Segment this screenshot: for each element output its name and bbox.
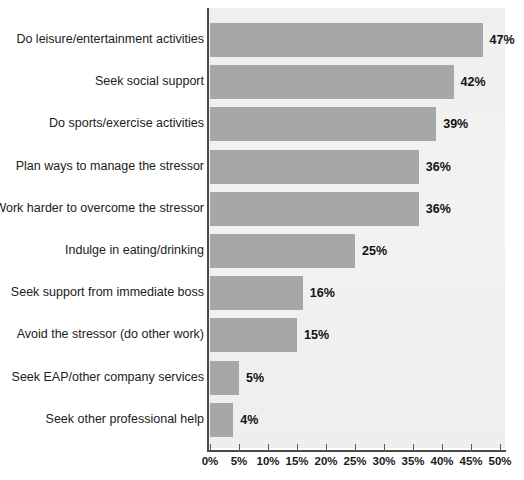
bar-row: Seek other professional help4% bbox=[0, 403, 524, 437]
bar-row: Avoid the stressor (do other work)15% bbox=[0, 318, 524, 352]
bar-value-label: 15% bbox=[304, 328, 329, 342]
x-axis-tick-label: 30% bbox=[372, 455, 395, 467]
x-axis-tick bbox=[384, 444, 385, 452]
bar-track: 25% bbox=[210, 234, 506, 268]
category-label: Seek support from immediate boss bbox=[11, 286, 204, 300]
x-axis-tick bbox=[268, 444, 269, 452]
bar-track: 16% bbox=[210, 276, 506, 310]
category-label: Seek other professional help bbox=[46, 413, 204, 427]
bar bbox=[210, 23, 483, 57]
bar bbox=[210, 234, 355, 268]
category-label: Do leisure/entertainment activities bbox=[16, 33, 204, 47]
bar bbox=[210, 318, 297, 352]
bar-value-label: 42% bbox=[461, 75, 486, 89]
bar-value-label: 47% bbox=[490, 33, 515, 47]
bar bbox=[210, 150, 419, 184]
x-axis-line bbox=[207, 450, 506, 452]
x-axis-tick-label: 20% bbox=[314, 455, 337, 467]
category-label: Work harder to overcome the stressor bbox=[0, 202, 204, 216]
bar bbox=[210, 361, 239, 395]
x-axis-tick bbox=[500, 444, 501, 452]
x-axis-tick bbox=[442, 444, 443, 452]
bar-row: Do sports/exercise activities39% bbox=[0, 107, 524, 141]
bar-row: Do leisure/entertainment activities47% bbox=[0, 23, 524, 57]
x-axis-tick-label: 50% bbox=[488, 455, 511, 467]
bar-value-label: 36% bbox=[426, 202, 451, 216]
bar-track: 36% bbox=[210, 150, 506, 184]
bar-row: Work harder to overcome the stressor36% bbox=[0, 192, 524, 226]
bar-value-label: 5% bbox=[246, 371, 264, 385]
category-label: Plan ways to manage the stressor bbox=[16, 160, 204, 174]
bar-track: 15% bbox=[210, 318, 506, 352]
bar-track: 4% bbox=[210, 403, 506, 437]
x-axis-tick-label: 35% bbox=[401, 455, 424, 467]
bar-value-label: 16% bbox=[310, 286, 335, 300]
bar-track: 39% bbox=[210, 107, 506, 141]
bar bbox=[210, 107, 436, 141]
bar-track: 47% bbox=[210, 23, 506, 57]
bar bbox=[210, 276, 303, 310]
x-axis-tick bbox=[297, 444, 298, 452]
x-axis-tick bbox=[471, 444, 472, 452]
category-label: Seek EAP/other company services bbox=[12, 371, 204, 385]
x-axis-tick-label: 15% bbox=[285, 455, 308, 467]
bar-row: Indulge in eating/drinking25% bbox=[0, 234, 524, 268]
bar-value-label: 4% bbox=[240, 413, 258, 427]
x-axis-tick-label: 10% bbox=[256, 455, 279, 467]
x-axis-tick-label: 45% bbox=[459, 455, 482, 467]
x-axis-tick-label: 25% bbox=[343, 455, 366, 467]
bar-track: 36% bbox=[210, 192, 506, 226]
bar-row: Plan ways to manage the stressor36% bbox=[0, 150, 524, 184]
x-axis-tick bbox=[326, 444, 327, 452]
category-label: Avoid the stressor (do other work) bbox=[17, 329, 204, 343]
bar-value-label: 36% bbox=[426, 160, 451, 174]
category-label: Indulge in eating/drinking bbox=[65, 244, 204, 258]
x-axis-tick bbox=[355, 444, 356, 452]
x-axis-tick bbox=[210, 444, 211, 452]
bar-track: 5% bbox=[210, 361, 506, 395]
category-label: Seek social support bbox=[95, 75, 204, 89]
bar-track: 42% bbox=[210, 65, 506, 99]
x-axis-tick-label: 5% bbox=[231, 455, 248, 467]
x-axis-tick-label: 0% bbox=[202, 455, 219, 467]
bar-chart-figure: Do leisure/entertainment activities47%Se… bbox=[0, 0, 524, 480]
x-axis-tick bbox=[239, 444, 240, 452]
bar-row: Seek EAP/other company services5% bbox=[0, 361, 524, 395]
bar bbox=[210, 192, 419, 226]
bar-value-label: 25% bbox=[362, 244, 387, 258]
x-axis-tick-label: 40% bbox=[430, 455, 453, 467]
bar bbox=[210, 65, 454, 99]
bar-row: Seek support from immediate boss16% bbox=[0, 276, 524, 310]
bar bbox=[210, 403, 233, 437]
x-axis-tick bbox=[413, 444, 414, 452]
category-label: Do sports/exercise activities bbox=[49, 118, 204, 132]
bar-value-label: 39% bbox=[443, 117, 468, 131]
bar-row: Seek social support42% bbox=[0, 65, 524, 99]
